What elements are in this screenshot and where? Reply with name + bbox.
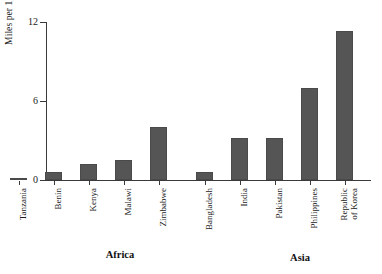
x-label-line1: Republic — [339, 188, 349, 246]
x-label-republic-of-korea: Republicof Korea — [339, 188, 358, 246]
x-axis-line — [46, 180, 371, 181]
bar-slot — [301, 22, 318, 180]
x-tick-mark — [345, 181, 346, 185]
x-tick-mark — [275, 181, 276, 185]
x-label-india: India — [239, 188, 249, 246]
x-label-kenya: Kenya — [88, 188, 98, 246]
plot-area — [47, 22, 371, 180]
y-tick-0: 0 — [0, 180, 47, 181]
x-tick-mark — [89, 181, 90, 185]
x-tick-mark — [310, 181, 311, 185]
bar-republic-of-korea[interactable] — [336, 31, 353, 180]
x-tick-mark — [19, 181, 20, 185]
bar-bangladesh[interactable] — [196, 172, 213, 180]
bar-slot — [336, 22, 353, 180]
bar-zimbabwe[interactable] — [150, 127, 167, 180]
bar-benin[interactable] — [45, 172, 62, 180]
x-label-malawi: Malawi — [123, 188, 133, 246]
bar-india[interactable] — [231, 138, 248, 180]
bar-slot — [45, 22, 62, 180]
bar-malawi[interactable] — [115, 160, 132, 180]
bar-slot — [266, 22, 283, 180]
x-tick-mark — [54, 181, 55, 185]
bar-slot — [196, 22, 213, 180]
bar-pakistan[interactable] — [266, 138, 283, 180]
bar-chart: Miles per 1,000 hectares 1260 TanzaniaBe… — [0, 0, 382, 274]
x-label-tanzania: Tanzania — [18, 188, 28, 246]
x-label-line2: of Korea — [349, 188, 359, 246]
x-label-pakistan: Pakistan — [274, 188, 284, 246]
bar-slot — [10, 22, 27, 180]
bar-philippines[interactable] — [301, 88, 318, 180]
x-tick-mark — [159, 181, 160, 185]
x-tick-mark — [205, 181, 206, 185]
bar-slot — [231, 22, 248, 180]
x-label-zimbabwe: Zimbabwe — [158, 188, 168, 246]
bar-kenya[interactable] — [80, 164, 97, 180]
x-tick-mark — [124, 181, 125, 185]
bar-slot — [115, 22, 132, 180]
bar-tanzania[interactable] — [10, 178, 27, 180]
y-tick-mark — [40, 180, 47, 181]
bar-slot — [150, 22, 167, 180]
x-tick-mark — [240, 181, 241, 185]
bar-slot — [80, 22, 97, 180]
x-label-philippines: Philippines — [309, 188, 319, 246]
group-label-africa: Africa — [55, 249, 185, 260]
x-label-bangladesh: Bangladesh — [204, 188, 214, 246]
x-label-benin: Benin — [53, 188, 63, 246]
group-label-asia: Asia — [235, 252, 365, 263]
